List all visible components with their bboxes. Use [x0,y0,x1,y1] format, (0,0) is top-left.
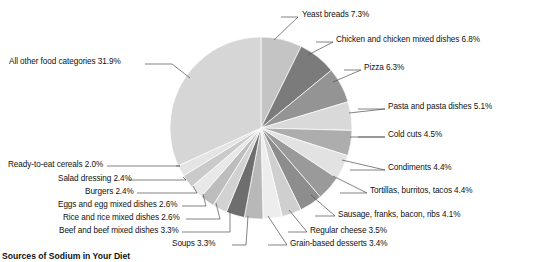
leader-line [182,211,230,232]
slice-label: Sausage, franks, bacon, ribs 4.1% [338,210,460,220]
pie-chart-figure: Yeast breads 7.3%Chicken and chicken mix… [0,0,537,262]
leader-line [128,177,186,180]
slice-label: Tortillas, burritos, tacos 4.4% [370,186,473,196]
leader-line [342,160,385,170]
leader-line [333,70,361,82]
slice-label: Rice and rice mixed dishes 2.6% [63,213,180,223]
leader-line [333,176,367,193]
slice-label: Beef and beef mixed dishes 3.3% [59,226,179,236]
pie-slices-group [170,37,352,219]
leader-line [349,109,385,113]
slice-label: Pasta and pasta dishes 5.1% [388,102,492,112]
leader-line [145,64,190,78]
leader-line [268,216,287,245]
slice-label: Yeast breads 7.3% [302,10,369,20]
slice-label: Condiments 4.4% [388,163,452,173]
slice-label: All other food categories 31.9% [9,57,121,67]
leader-line [232,216,248,245]
leader-line [308,42,333,55]
slice-label: Soups 3.3% [172,239,215,249]
leader-line [274,17,298,40]
slice-label: Salad dressing 2.4% [58,174,132,184]
leader-line [137,186,197,193]
slice-label: Cold cuts 4.5% [388,130,442,140]
slice-label: Burgers 2.4% [85,187,134,197]
slice-label: Ready-to-eat cereals 2.0% [8,160,103,170]
slice-label: Regular cheese 3.5% [310,226,387,236]
slice-label: Chicken and chicken mixed dishes 6.8% [336,35,480,45]
slice-label: Grain-based desserts 3.4% [290,239,387,249]
leader-line [311,195,335,216]
slice-label: Eggs and egg mixed dishes 2.6% [58,200,177,210]
slice-label: Pizza 6.3% [364,63,404,73]
chart-caption: Sources of Sodium in Your Diet [2,251,130,261]
